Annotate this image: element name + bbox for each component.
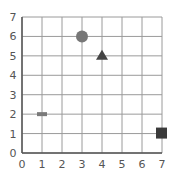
square-marker	[156, 128, 167, 139]
y-tick-label: 0	[10, 147, 17, 160]
x-tick-label: 6	[139, 158, 146, 171]
dash-marker	[37, 112, 47, 116]
scatter-chart: 01234567 01234567	[0, 0, 176, 178]
y-tick-label: 3	[10, 89, 17, 102]
x-tick-label: 1	[39, 158, 46, 171]
y-tick-label: 1	[10, 128, 17, 141]
y-axis-tick-labels: 01234567	[10, 11, 17, 160]
y-tick-label: 4	[10, 69, 17, 82]
y-tick-label: 7	[10, 11, 17, 24]
x-axis-tick-labels: 01234567	[19, 158, 166, 171]
grid-lines	[22, 17, 162, 153]
x-tick-label: 5	[119, 158, 126, 171]
x-tick-label: 3	[79, 158, 86, 171]
axes	[22, 17, 162, 153]
x-tick-label: 2	[59, 158, 66, 171]
y-tick-label: 6	[10, 30, 17, 43]
triangle-marker	[96, 50, 108, 60]
circle-marker	[76, 30, 88, 42]
x-tick-label: 0	[19, 158, 26, 171]
x-tick-label: 4	[99, 158, 106, 171]
x-tick-label: 7	[159, 158, 166, 171]
y-tick-label: 5	[10, 50, 17, 63]
y-tick-label: 2	[10, 108, 17, 121]
